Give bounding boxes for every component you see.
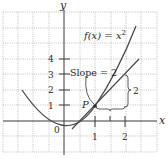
y-tick-label-2: 2 — [48, 85, 54, 95]
point-p-label: P — [81, 99, 89, 110]
origin-label: 0 — [54, 125, 60, 135]
x-tick-label-2: 2 — [122, 132, 128, 142]
y-tick-label-1: 1 — [48, 101, 54, 111]
function-label: f(x) = x2 — [83, 29, 126, 41]
x-axis-label: x — [159, 114, 166, 127]
run-brace — [96, 106, 125, 111]
function-label-exponent: 2 — [122, 29, 126, 37]
function-label-text: f(x) = x — [83, 30, 122, 41]
x-tick-label-1: 1 — [92, 132, 98, 142]
diagram-canvas: y x 0 1 2 3 4 1 2 f(x) = x2 Slope = 2 P … — [0, 0, 168, 159]
rise-label: 2 — [133, 86, 139, 96]
slope-label: Slope = 2 — [70, 67, 117, 78]
y-tick-label-4: 4 — [48, 54, 54, 64]
y-tick-label-3: 3 — [48, 70, 54, 80]
y-axis-label: y — [59, 0, 67, 12]
rise-brace — [125, 75, 131, 107]
